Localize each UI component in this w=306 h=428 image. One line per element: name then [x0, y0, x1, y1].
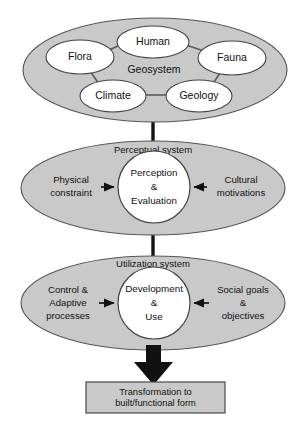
output-box-line2: built/functional form — [115, 398, 196, 408]
physical-constraint-line2: constraint — [50, 187, 92, 198]
social-goals-line3: objectives — [222, 310, 265, 321]
control-adaptive-line2: Adaptive — [49, 297, 86, 308]
flora-label: Flora — [68, 50, 92, 62]
diagram-root: Flora Human Fauna Climate Geology — [0, 0, 306, 428]
development-core-line3: Use — [145, 311, 163, 322]
perception-core-line2: & — [151, 181, 158, 192]
geosystem-label: Geosystem — [127, 63, 180, 75]
output-box-line1: Transformation to — [119, 387, 192, 397]
perception-core-line1: Perception — [131, 167, 178, 178]
geosystem-node-flora: Flora — [46, 40, 114, 74]
output-arrow — [134, 345, 173, 385]
control-adaptive-line3: processes — [46, 310, 90, 321]
control-adaptive-line1: Control & — [48, 284, 89, 295]
geosystem-node-climate: Climate — [80, 80, 146, 112]
development-core-line2: & — [151, 297, 158, 308]
geosystem-node-geology: Geology — [166, 80, 232, 112]
geosystem-node-fauna: Fauna — [198, 41, 266, 75]
perception-core-line3: Evaluation — [131, 195, 177, 206]
cultural-motivations-line2: motivations — [217, 187, 266, 198]
cultural-motivations-line1: Cultural — [224, 174, 257, 185]
physical-constraint-line1: Physical — [53, 174, 89, 185]
geosystem-node-human: Human — [117, 26, 189, 58]
climate-label: Climate — [95, 89, 131, 101]
geology-label: Geology — [179, 89, 219, 101]
system-utilization: Utilization system Development & Use Con… — [21, 256, 285, 350]
social-goals-line2: & — [240, 297, 247, 308]
output-box: Transformation to built/functional form — [86, 382, 225, 413]
human-label: Human — [136, 35, 170, 47]
process-diagram: Flora Human Fauna Climate Geology — [0, 0, 306, 428]
system-geosystem: Flora Human Fauna Climate Geology — [23, 18, 287, 122]
fauna-label: Fauna — [217, 51, 247, 63]
development-core-line1: Development — [125, 283, 183, 294]
social-goals-line1: Social goals — [217, 284, 269, 295]
system-perceptual: Perceptual system Perception & Evaluatio… — [21, 141, 285, 235]
